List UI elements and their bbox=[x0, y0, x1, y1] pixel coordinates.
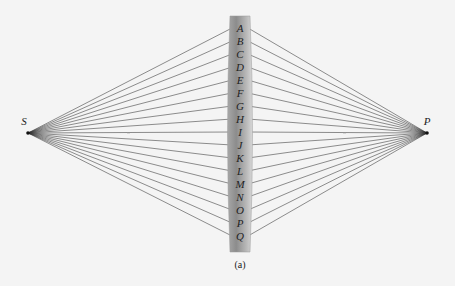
refracted-ray bbox=[248, 133, 427, 223]
figure-caption: (a) bbox=[234, 259, 245, 271]
refracted-ray bbox=[248, 132, 427, 133]
incident-ray bbox=[28, 67, 232, 133]
lens-point-label: O bbox=[236, 204, 244, 216]
incident-ray bbox=[28, 133, 232, 158]
lens-point-label: N bbox=[235, 191, 244, 203]
incident-ray bbox=[28, 41, 232, 133]
refracted-ray bbox=[248, 133, 427, 158]
lens-point-label: F bbox=[236, 87, 244, 99]
diagram-canvas: ABCDEFGHIJKLMNOPQ S P (a) bbox=[0, 0, 455, 286]
image-label: P bbox=[423, 115, 431, 127]
refracted-ray bbox=[248, 133, 427, 184]
refracted-ray bbox=[248, 133, 427, 236]
refracted-ray bbox=[248, 80, 427, 133]
incident-ray bbox=[28, 133, 232, 210]
lens-point-label: B bbox=[237, 35, 244, 47]
incident-ray bbox=[28, 133, 232, 145]
incident-ray bbox=[28, 133, 232, 223]
refracted-ray bbox=[248, 133, 427, 171]
incident-ray bbox=[28, 28, 232, 133]
lens-point-label: H bbox=[235, 113, 245, 125]
lens-point-label: Q bbox=[236, 230, 244, 242]
incident-ray bbox=[28, 133, 232, 236]
incident-ray bbox=[28, 80, 232, 133]
refracted-ray bbox=[248, 133, 427, 197]
lens-point-label: D bbox=[235, 61, 244, 73]
refracted-ray bbox=[248, 67, 427, 133]
refracted-ray bbox=[248, 41, 427, 133]
incident-ray bbox=[28, 133, 232, 171]
lens-point-label: A bbox=[236, 22, 244, 34]
lens-point-label: K bbox=[235, 152, 244, 164]
refracted-ray bbox=[248, 28, 427, 133]
rays-to-image bbox=[248, 28, 427, 236]
lens-point-label: C bbox=[236, 48, 244, 60]
incident-ray bbox=[28, 133, 232, 197]
lens-point-label: G bbox=[236, 100, 244, 112]
incident-ray bbox=[28, 93, 232, 133]
source-label: S bbox=[21, 115, 27, 127]
lens-point-label: M bbox=[234, 178, 245, 190]
rays-from-source bbox=[28, 28, 232, 236]
refracted-ray bbox=[248, 133, 427, 145]
refracted-ray bbox=[248, 93, 427, 133]
incident-ray bbox=[28, 133, 232, 184]
source-point bbox=[26, 131, 30, 135]
refracted-ray bbox=[248, 133, 427, 210]
lens-ray-diagram: ABCDEFGHIJKLMNOPQ S P (a) bbox=[0, 0, 455, 286]
image-point bbox=[425, 131, 429, 135]
lens-point-label: E bbox=[236, 74, 244, 86]
lens-point-label: L bbox=[236, 165, 243, 177]
lens-point-label: P bbox=[236, 217, 244, 229]
